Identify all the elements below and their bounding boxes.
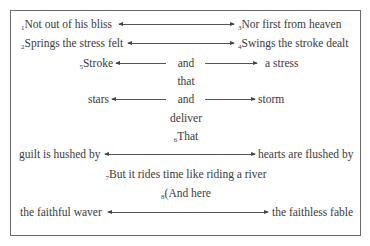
double-arrow-icon (105, 154, 255, 155)
line-10-center: 8(And here (161, 186, 211, 200)
line-8-right: hearts are flushed by (258, 147, 353, 161)
line-1-left: 1Not out of his bliss (21, 17, 112, 31)
line-5-center: and (178, 92, 195, 106)
double-arrow-icon (108, 212, 268, 213)
line-6-center: deliver (170, 111, 202, 125)
line-3-left: 5Stroke (79, 56, 113, 70)
left-arrow-icon (112, 99, 166, 100)
line-4-center: that (177, 74, 194, 88)
line-11-left: the faithful waver (20, 205, 102, 219)
double-arrow-icon (119, 24, 234, 25)
line-2-left: 2Springs the stress felt (21, 36, 123, 50)
line-1-right: 3Nor first from heaven (238, 17, 341, 31)
line-5-right: storm (258, 92, 284, 106)
line-3-right: a stress (265, 56, 299, 70)
line-9-center: 7But it rides time like riding a river (106, 167, 267, 181)
line-11-right: the faithless fable (272, 205, 353, 219)
right-arrow-icon (205, 99, 255, 100)
double-arrow-icon (128, 43, 234, 44)
line-2-right: 4Swings the stroke dealt (238, 36, 349, 50)
line-5-left: stars (88, 92, 109, 106)
left-arrow-icon (116, 63, 166, 64)
line-3-center: and (178, 56, 195, 70)
right-arrow-icon (205, 63, 257, 64)
line-7-center: 6That (174, 129, 199, 143)
line-8-left: guilt is hushed by (19, 147, 100, 161)
